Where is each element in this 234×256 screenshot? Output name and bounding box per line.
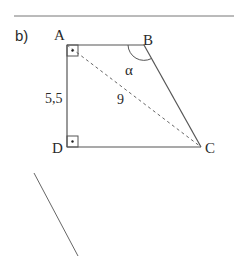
right-angle-marker-d (67, 136, 78, 147)
trapezoid-diagram: b) A B C D 5,5 9 α (0, 0, 234, 256)
diagonal-length-label: 9 (117, 92, 124, 107)
side-ad-length-label: 5,5 (45, 91, 63, 106)
diagonal-ac (67, 45, 201, 147)
vertex-label-c: C (205, 140, 215, 156)
task-label: b) (15, 27, 28, 44)
vertex-label-d: D (52, 140, 63, 156)
angle-alpha-label: α (125, 62, 133, 78)
vertex-label-b: B (143, 32, 153, 48)
vertex-label-a: A (54, 27, 65, 43)
partial-line (34, 173, 78, 256)
side-bc (144, 45, 201, 147)
